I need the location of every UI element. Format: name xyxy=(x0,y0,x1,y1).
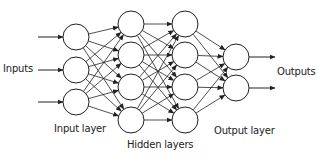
hidden2-node xyxy=(172,74,198,100)
input-node xyxy=(63,89,89,115)
connection-edge xyxy=(88,106,118,116)
hidden1-node xyxy=(118,42,144,68)
connection-edge xyxy=(86,79,122,112)
input-node xyxy=(63,57,89,83)
connection-edge xyxy=(86,63,121,93)
connection-edge xyxy=(196,95,225,113)
hidden1-node xyxy=(118,74,144,100)
inputs-label: Inputs xyxy=(3,63,33,74)
connection-edge xyxy=(198,56,223,57)
hidden1-node xyxy=(118,107,144,133)
hidden1-node xyxy=(118,11,144,37)
connections xyxy=(83,24,228,120)
connection-edge xyxy=(88,41,118,51)
input-node xyxy=(63,24,89,50)
input-layer-label: Input layer xyxy=(54,123,106,134)
hidden-layers-label: Hidden layers xyxy=(127,139,193,150)
outputs-label: Outputs xyxy=(277,66,316,77)
output-node xyxy=(223,44,249,70)
connection-edge xyxy=(89,27,119,34)
connection-edge xyxy=(86,46,122,79)
hidden2-node xyxy=(172,107,198,133)
hidden2-node xyxy=(172,11,198,37)
connection-edge xyxy=(196,31,225,50)
hidden2-node xyxy=(172,42,198,68)
output-node xyxy=(223,75,249,101)
output-layer-label: Output layer xyxy=(214,125,275,136)
connection-edge xyxy=(86,32,121,61)
